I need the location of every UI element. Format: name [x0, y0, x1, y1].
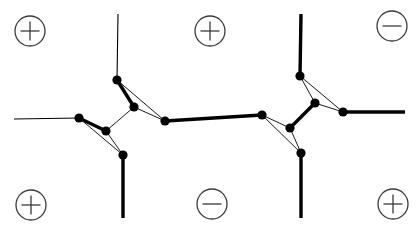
- lattice-diagram: [0, 0, 420, 231]
- lattice-node-right-cluster-west: [285, 123, 294, 132]
- lattice-node-bridge-right: [257, 110, 266, 119]
- lattice-node-right-cluster-east: [338, 107, 347, 116]
- lattice-node-right-cluster-bottom: [296, 148, 305, 157]
- lattice-node-left-cluster-inner: [101, 126, 110, 135]
- lattice-edge-e-top-right-lead: [300, 14, 301, 76]
- lattice-node-left-cluster-west: [74, 113, 83, 122]
- lattice-node-right-cluster-top: [295, 71, 304, 80]
- lattice-canvas: [0, 0, 420, 231]
- lattice-node-left-cluster-east: [129, 102, 138, 111]
- lattice-node-bridge-left: [160, 116, 169, 125]
- lattice-node-right-cluster-inner: [310, 98, 319, 107]
- lattice-node-left-cluster-bottom: [118, 150, 127, 159]
- lattice-node-left-cluster-top: [112, 75, 121, 84]
